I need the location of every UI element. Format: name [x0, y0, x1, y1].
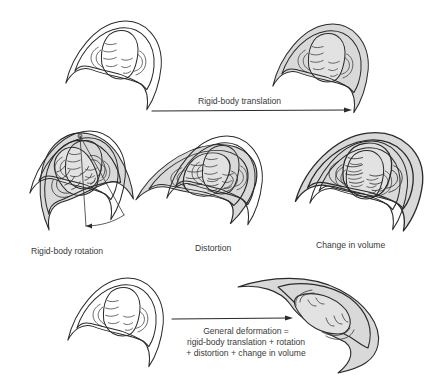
translation-arrow	[152, 108, 352, 113]
label-translation: Rigid-body translation	[198, 96, 281, 106]
label-distortion: Distortion	[195, 243, 232, 253]
trilobite-translated	[273, 24, 369, 113]
trilobite-rotation	[10, 117, 146, 251]
trilobite-distortion	[131, 136, 263, 225]
deformation-diagram: Rigid-body translation Rigid-body rotati…	[0, 0, 427, 384]
label-general-line2: rigid-body translation + rotation	[187, 337, 305, 347]
label-rotation: Rigid-body rotation	[31, 246, 103, 256]
trilobite-original-bottom	[68, 278, 164, 367]
label-volume: Change in volume	[316, 240, 385, 250]
label-general-line3: + distortion + change in volume	[186, 348, 306, 358]
general-deformation-arrow	[172, 316, 293, 321]
trilobite-volume	[295, 133, 422, 231]
label-general-line1: General deformation =	[203, 326, 289, 336]
trilobite-original-top	[66, 21, 162, 110]
